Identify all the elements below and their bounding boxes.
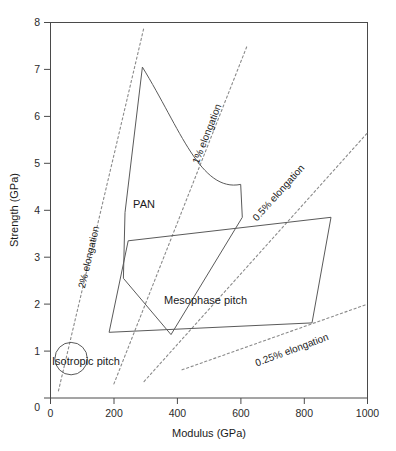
y-tick-label: 1 <box>34 345 40 357</box>
y-tick-label: 4 <box>34 204 40 216</box>
y-tick-label: 6 <box>34 110 40 122</box>
y-tick-label: 0 <box>34 401 40 413</box>
chart-figure: 8 7 6 5 4 3 2 1 0 0 200 400 600 800 1000… <box>0 0 396 451</box>
mesophase-pitch-label: Mesophase pitch <box>164 294 247 306</box>
pan-region-label: PAN <box>133 198 155 210</box>
x-tick-label: 600 <box>232 407 250 419</box>
materials-property-chart: 8 7 6 5 4 3 2 1 0 0 200 400 600 800 1000… <box>0 0 396 451</box>
x-tick-label: 400 <box>169 407 187 419</box>
y-tick-label: 3 <box>34 251 40 263</box>
chart-background <box>0 0 396 451</box>
x-tick-label: 1000 <box>356 407 380 419</box>
x-tick-label: 200 <box>105 407 123 419</box>
y-axis-title: Strength (GPa) <box>8 173 20 247</box>
isotropic-pitch-label: Isotropic pitch <box>52 355 120 367</box>
y-tick-label: 8 <box>34 16 40 28</box>
y-tick-label: 7 <box>34 63 40 75</box>
x-tick-label: 800 <box>296 407 314 419</box>
x-axis-title: Modulus (GPa) <box>172 427 246 439</box>
y-tick-label: 5 <box>34 157 40 169</box>
x-tick-label: 0 <box>48 407 54 419</box>
y-tick-label: 2 <box>34 298 40 310</box>
